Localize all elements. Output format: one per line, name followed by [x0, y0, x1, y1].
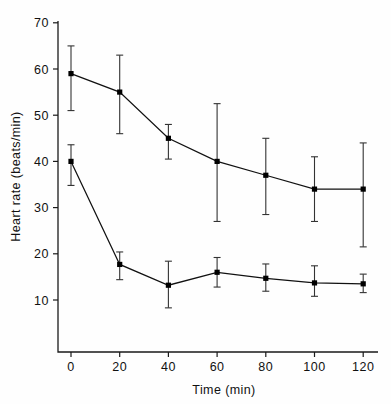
x-axis-title: Time (min) — [192, 383, 255, 397]
x-tick-label: 100 — [303, 360, 325, 374]
data-point-marker — [215, 159, 220, 164]
data-point-marker — [166, 136, 171, 141]
data-point-marker — [312, 187, 317, 192]
labels-group: 10203040506070020406080100120Time (min)H… — [9, 16, 374, 397]
data-point-marker — [117, 90, 122, 95]
data-point-marker — [117, 262, 122, 267]
x-tick-label: 60 — [210, 360, 225, 374]
data-point-marker — [263, 276, 268, 281]
data-point-marker — [312, 280, 317, 285]
axis-lines — [58, 21, 378, 352]
y-axis-title: Heart rate (beats/min) — [9, 111, 23, 241]
y-tick-label: 20 — [34, 247, 49, 261]
x-tick-label: 80 — [258, 360, 273, 374]
chart-container: 10203040506070020406080100120Time (min)H… — [0, 0, 391, 404]
x-tick-label: 0 — [67, 360, 74, 374]
x-tick-label: 20 — [112, 360, 127, 374]
heart-rate-line-chart: 10203040506070020406080100120Time (min)H… — [0, 0, 391, 404]
data-point-marker — [68, 159, 73, 164]
data-point-marker — [68, 71, 73, 76]
data-point-marker — [215, 270, 220, 275]
y-tick-label: 70 — [34, 16, 49, 30]
data-point-marker — [361, 187, 366, 192]
data-point-marker — [166, 283, 171, 288]
data-point-marker — [263, 173, 268, 178]
y-tick-label: 50 — [34, 109, 49, 123]
x-tick-label: 120 — [352, 360, 374, 374]
series-upper-series — [68, 46, 367, 247]
y-tick-label: 40 — [34, 155, 49, 169]
y-tick-label: 10 — [34, 294, 49, 308]
y-tick-label: 30 — [34, 201, 49, 215]
data-point-marker — [361, 281, 366, 286]
x-tick-label: 40 — [161, 360, 176, 374]
y-tick-label: 60 — [34, 63, 49, 77]
series-group — [68, 46, 367, 308]
